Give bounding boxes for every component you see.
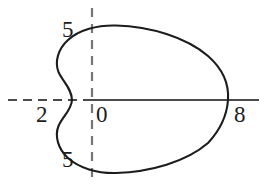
x-axis-label-positive-8: 8 bbox=[234, 103, 246, 126]
origin-label-0: 0 bbox=[96, 103, 108, 126]
y-axis-label-positive-5: 5 bbox=[62, 18, 74, 41]
x-axis-label-negative-2: 2 bbox=[36, 103, 48, 126]
polar-curve-figure: 5 5 2 0 8 bbox=[0, 0, 268, 184]
plot-canvas bbox=[0, 0, 268, 184]
y-axis-label-negative-5: 5 bbox=[62, 148, 74, 171]
